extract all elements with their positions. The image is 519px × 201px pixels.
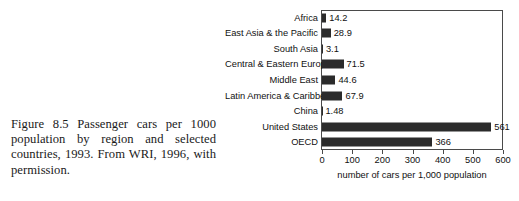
category-label: Latin America & Caribbean <box>225 91 318 101</box>
category-label: United States <box>225 122 318 132</box>
bar <box>322 91 342 100</box>
category-label: Middle East <box>225 75 318 85</box>
category-label: Africa <box>225 13 318 23</box>
x-tick-label: 200 <box>375 155 391 166</box>
bar <box>322 75 335 84</box>
x-tick-mark <box>413 150 414 154</box>
x-tick-label: 500 <box>465 155 481 166</box>
bar-chart: Africa14.2East Asia & the Pacific28.9Sou… <box>225 5 515 195</box>
x-tick-mark <box>443 150 444 154</box>
bar <box>322 122 491 131</box>
category-label: Central & Eastern Europe <box>225 59 318 69</box>
x-tick-mark <box>473 150 474 154</box>
x-tick-label: 0 <box>319 155 324 166</box>
x-tick-mark <box>352 150 353 154</box>
chart-row: Africa14.2 <box>225 10 515 26</box>
x-tick-label: 100 <box>344 155 360 166</box>
figure-caption: Figure 8.5 Passenger cars per 1000 popul… <box>11 117 216 178</box>
figure-passenger-cars: Figure 8.5 Passenger cars per 1000 popul… <box>0 0 519 201</box>
category-label: China <box>225 106 318 116</box>
bar-value-label: 366 <box>432 137 451 147</box>
x-axis-title: number of cars per 1,000 population <box>321 170 503 181</box>
category-label: South Asia <box>225 44 318 54</box>
bar <box>322 138 432 147</box>
bar-value-label: 44.6 <box>335 75 356 85</box>
chart-row: OECD366 <box>225 134 515 150</box>
bar-value-label: 14.2 <box>326 13 347 23</box>
chart-row: Middle East44.6 <box>225 72 515 88</box>
bar-value-label: 561 <box>491 122 510 132</box>
bar <box>322 60 344 69</box>
chart-row: East Asia & the Pacific28.9 <box>225 26 515 42</box>
bar-value-label: 67.9 <box>342 91 363 101</box>
chart-row: United States561 <box>225 119 515 135</box>
x-tick-label: 600 <box>495 155 511 166</box>
category-label: OECD <box>225 137 318 147</box>
bar-value-label: 71.5 <box>344 59 365 69</box>
category-label: East Asia & the Pacific <box>225 28 318 38</box>
x-tick-label: 400 <box>435 155 451 166</box>
x-tick-mark <box>382 150 383 154</box>
chart-row: China1.48 <box>225 103 515 119</box>
bar-value-label: 1.48 <box>322 106 343 116</box>
bar <box>322 29 331 38</box>
chart-row: Central & Eastern Europe71.5 <box>225 57 515 73</box>
chart-row: South Asia3.1 <box>225 41 515 57</box>
x-tick-mark <box>322 150 323 154</box>
x-tick-mark <box>503 150 504 154</box>
x-tick-label: 300 <box>405 155 421 166</box>
chart-row: Latin America & Caribbean67.9 <box>225 88 515 104</box>
bar-value-label: 3.1 <box>323 44 339 54</box>
bar-value-label: 28.9 <box>331 28 352 38</box>
